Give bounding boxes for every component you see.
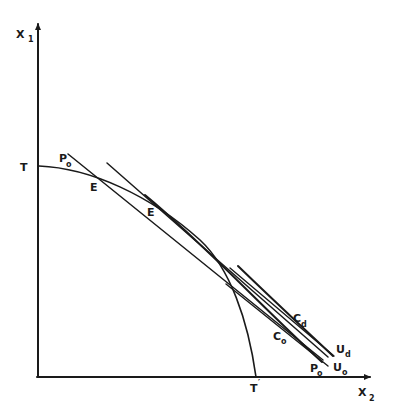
svg-text:′: ′ xyxy=(258,379,260,388)
svg-text:U: U xyxy=(336,343,345,356)
svg-text:o: o xyxy=(317,369,323,378)
svg-text:2: 2 xyxy=(369,394,375,403)
label-ud: U d xyxy=(336,343,351,359)
svg-text:o: o xyxy=(281,337,287,346)
svg-text:X: X xyxy=(358,386,367,399)
svg-text:T: T xyxy=(250,382,258,395)
label-u0: U o xyxy=(333,361,348,377)
y-axis-label: X 1 xyxy=(16,28,34,44)
label-e-prime: E xyxy=(147,206,155,219)
label-p0-top: P o xyxy=(59,152,72,169)
svg-text:C: C xyxy=(293,312,301,325)
label-t: T xyxy=(20,161,28,174)
label-e: E xyxy=(90,181,98,194)
trade-diagram: X 1 X 2 T T ′ E E P o P o C o C d U d U … xyxy=(0,0,393,415)
svg-text:X: X xyxy=(16,28,25,41)
svg-text:o: o xyxy=(342,368,348,377)
svg-text:1: 1 xyxy=(28,35,34,44)
svg-text:o: o xyxy=(66,160,72,169)
label-p0-bottom: P o xyxy=(310,362,323,378)
label-t-prime: T ′ xyxy=(250,379,260,395)
indifference-line-u0 xyxy=(226,284,328,366)
svg-text:U: U xyxy=(333,361,342,374)
svg-text:d: d xyxy=(345,350,351,359)
svg-text:C: C xyxy=(273,330,281,343)
price-line-p0 xyxy=(68,154,323,360)
svg-text:d: d xyxy=(301,320,307,329)
x-axis-label: X 2 xyxy=(358,386,375,403)
label-c0: C o xyxy=(273,330,287,346)
